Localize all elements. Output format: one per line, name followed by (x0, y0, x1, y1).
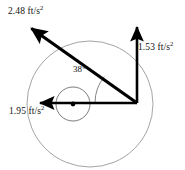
diagram-canvas (0, 0, 185, 170)
acceleration-vector-diagram: 2.48 ft/s2 1.53 ft/s2 1.95 ft/s2 38° (0, 0, 185, 170)
resultant-acceleration-label: 2.48 ft/s2 (8, 7, 43, 17)
vertical-acceleration-label: 1.53 ft/s2 (138, 43, 173, 53)
resultant-acceleration-units: ft/s (27, 6, 40, 16)
angle-value: 38 (73, 64, 82, 74)
vertical-acceleration-value: 1.53 (138, 42, 155, 52)
horizontal-acceleration-exponent: 2 (41, 104, 44, 111)
resultant-acceleration-value: 2.48 (8, 6, 25, 16)
horizontal-acceleration-label: 1.95 ft/s2 (9, 107, 44, 117)
resultant-acceleration-exponent: 2 (40, 4, 43, 11)
circle-center-dot (71, 102, 76, 107)
horizontal-acceleration-units: ft/s (28, 106, 41, 116)
vertical-acceleration-units: ft/s (157, 42, 170, 52)
vertical-acceleration-exponent: 2 (170, 40, 173, 47)
angle-label: 38° (73, 65, 86, 74)
angle-degree-symbol: ° (82, 64, 86, 74)
horizontal-acceleration-value: 1.95 (9, 106, 26, 116)
